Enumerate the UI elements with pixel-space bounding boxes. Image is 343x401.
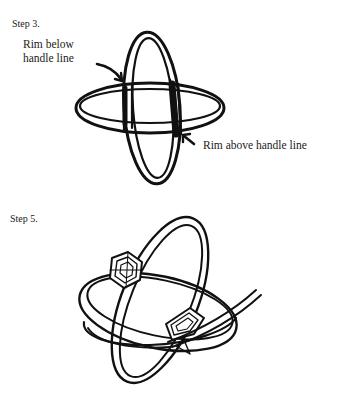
rim-hoop <box>76 83 224 134</box>
illustration-canvas <box>0 0 343 401</box>
arrow-rim-below <box>97 64 122 81</box>
step-3-figure <box>76 30 224 186</box>
handle-hoop-tilted <box>92 204 228 396</box>
step-5-title: Step 5. <box>10 214 38 225</box>
arrow-rim-above <box>183 134 194 144</box>
rim-hoop-tilted <box>72 260 243 364</box>
step-5-figure <box>72 204 261 396</box>
